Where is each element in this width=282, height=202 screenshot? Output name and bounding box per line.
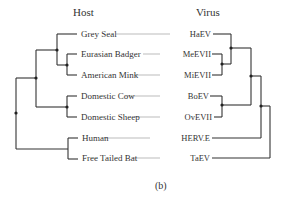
host-label-grey-seal: Grey Seal: [81, 29, 117, 39]
host-label-free-tailed-bat: Free Tailed Bat: [82, 153, 137, 163]
virus-label-taev: TaEV: [190, 153, 210, 163]
node-dot-icon: [220, 103, 223, 106]
host-label-human: Human: [82, 133, 109, 143]
virus-label-mievii: MiEVII: [184, 70, 211, 80]
tanglegram-canvas: [0, 0, 282, 202]
node-dot-icon: [55, 48, 58, 51]
host-label-eurasian-badger: Eurasian Badger: [81, 49, 141, 59]
host-label-american-mink: American Mink: [81, 70, 138, 80]
node-dot-icon: [220, 62, 223, 65]
node-dot-icon: [229, 46, 232, 49]
virus-label-ovevii: OvEVII: [185, 112, 212, 122]
host-phylogeny: [16, 34, 78, 159]
virus-label-meevii: MeEVII: [183, 49, 211, 59]
virus-label-haev: HaEV: [190, 29, 211, 39]
virus-phylogeny: [210, 34, 270, 158]
virus-label-boev: BoEV: [188, 91, 209, 101]
node-dot-icon: [259, 104, 262, 107]
node-dot-icon: [65, 63, 68, 66]
node-dot-icon: [34, 76, 37, 79]
host-label-domestic-cow: Domestic Cow: [81, 91, 135, 101]
virus-header: Virus: [196, 6, 220, 18]
virus-label-herv-e: HERV.E: [181, 133, 210, 143]
node-dot-icon: [249, 74, 252, 77]
figure-caption: (b): [155, 180, 167, 191]
host-label-domestic-sheep: Domestic Sheep: [81, 112, 140, 122]
node-dot-icon: [14, 111, 17, 114]
host-header: Host: [73, 6, 94, 18]
node-dot-icon: [65, 105, 68, 108]
